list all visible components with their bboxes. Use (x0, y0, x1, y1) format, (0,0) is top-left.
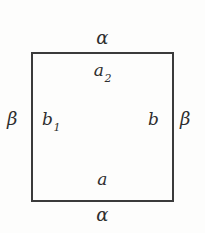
label-b1-base: b (42, 109, 53, 129)
label-beta-left-outside: β (7, 110, 18, 128)
label-b1-subscript: 1 (54, 121, 61, 134)
label-b1-left-inside: b1 (42, 111, 60, 131)
label-alpha-bottom-outside: α (0, 206, 205, 224)
label-a2-subscript: 2 (105, 72, 112, 85)
label-a-bottom-inside: a (31, 171, 174, 188)
label-beta-right-outside: β (180, 110, 191, 128)
square-label-diagram: α a2 β b1 b β a α (0, 0, 205, 233)
label-a2-base: a (94, 60, 104, 80)
label-b-right-inside: b (148, 111, 159, 128)
label-alpha-top-outside: α (0, 29, 205, 47)
label-a2-top-inside: a2 (31, 62, 174, 82)
